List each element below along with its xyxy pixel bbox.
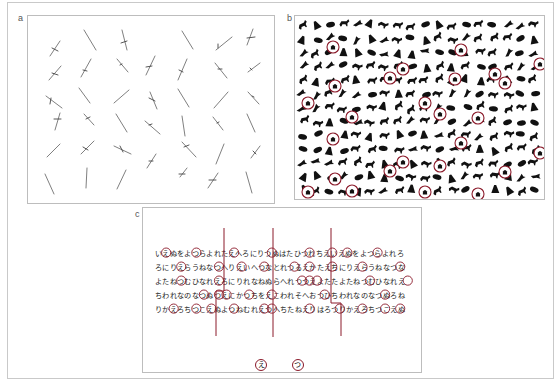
animal-silhouettes-display xyxy=(295,16,544,199)
line-segments-display xyxy=(28,16,274,203)
panel-b xyxy=(294,15,545,200)
panel-a-label: a xyxy=(18,13,23,23)
target-circle-tsu: つ xyxy=(292,359,304,371)
panel-c-label: c xyxy=(135,209,140,219)
target-circle-e: え xyxy=(255,359,267,371)
panel-c: いえぬをよつらよれたえへろにりつぬはたひつれちえいえぬをよつらよれろ ろにりえら… xyxy=(142,207,422,373)
scan-path-line-1 xyxy=(216,228,224,336)
scan-path-line-3 xyxy=(331,228,341,336)
panel-a xyxy=(27,15,275,204)
panel-b-label: b xyxy=(287,13,292,23)
target-legend: え つ xyxy=(255,353,304,371)
cancellation-marks xyxy=(143,208,421,372)
